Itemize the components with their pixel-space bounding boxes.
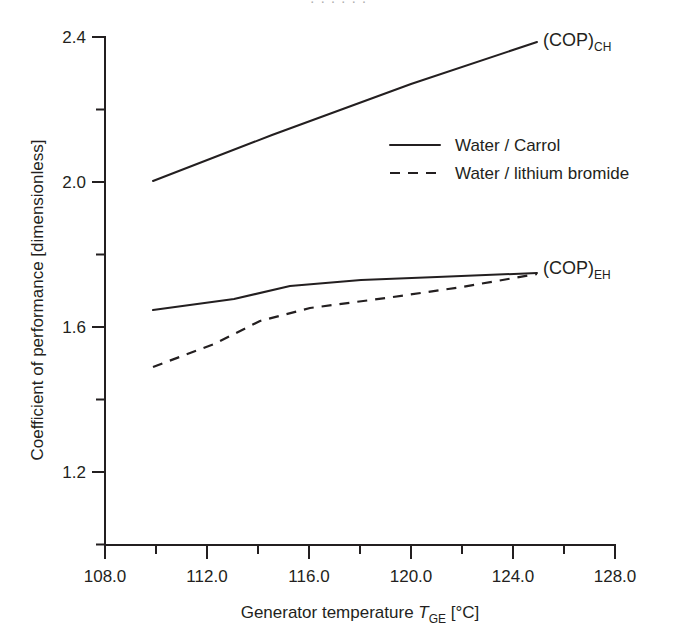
- x-tick-label: 120.0: [390, 567, 433, 586]
- y-tick-label: 2.4: [62, 28, 86, 47]
- x-axis: 108.0 112.0 116.0 120.0 124.0 128.0 Gene…: [84, 545, 637, 626]
- data-series-group: [153, 42, 537, 367]
- legend: Water / Carrol Water / lithium bromide: [390, 136, 629, 183]
- x-axis-title-symbol-sub: GE: [429, 612, 446, 626]
- x-tick-label: 124.0: [492, 567, 535, 586]
- curve-label-cop-ch-base: (COP): [543, 30, 594, 50]
- curve-label-cop-eh-sub: EH: [594, 268, 611, 282]
- y-tick-label: 1.6: [62, 318, 86, 337]
- x-tick-label: 116.0: [288, 567, 329, 586]
- y-tick-label: 2.0: [62, 173, 86, 192]
- figure-container: · · · · · · 2.4 2.0 1.6 1.2 Coefficient …: [0, 0, 677, 639]
- y-tick-label: 1.2: [62, 463, 86, 482]
- x-axis-title-main: Generator temperature: [241, 603, 414, 622]
- curve-label-cop-eh-base: (COP): [543, 258, 594, 278]
- x-tick-label: 108.0: [84, 567, 127, 586]
- curve-annotations: (COP)CH (COP)EH: [543, 30, 611, 282]
- x-axis-title: Generator temperature TGE [°C]: [241, 603, 480, 626]
- y-axis: 2.4 2.0 1.6 1.2 Coefficient of performan…: [28, 28, 105, 545]
- legend-label-water-lithium-bromide: Water / lithium bromide: [455, 164, 629, 183]
- x-tick-label: 128.0: [594, 567, 637, 586]
- curve-label-cop-ch: (COP)CH: [543, 30, 611, 54]
- curve-label-cop-eh: (COP)EH: [543, 258, 611, 282]
- legend-label-water-carrol: Water / Carrol: [455, 136, 560, 155]
- curve-label-cop-ch-sub: CH: [594, 40, 611, 54]
- series-cop-ch-water-carrol: [153, 42, 537, 181]
- series-cop-eh-water-lithium-bromide: [153, 274, 537, 367]
- x-tick-label: 112.0: [186, 567, 227, 586]
- chart-canvas: 2.4 2.0 1.6 1.2 Coefficient of performan…: [0, 0, 677, 639]
- y-axis-title: Coefficient of performance [dimensionles…: [28, 140, 47, 461]
- x-axis-title-units: [°C]: [451, 603, 480, 622]
